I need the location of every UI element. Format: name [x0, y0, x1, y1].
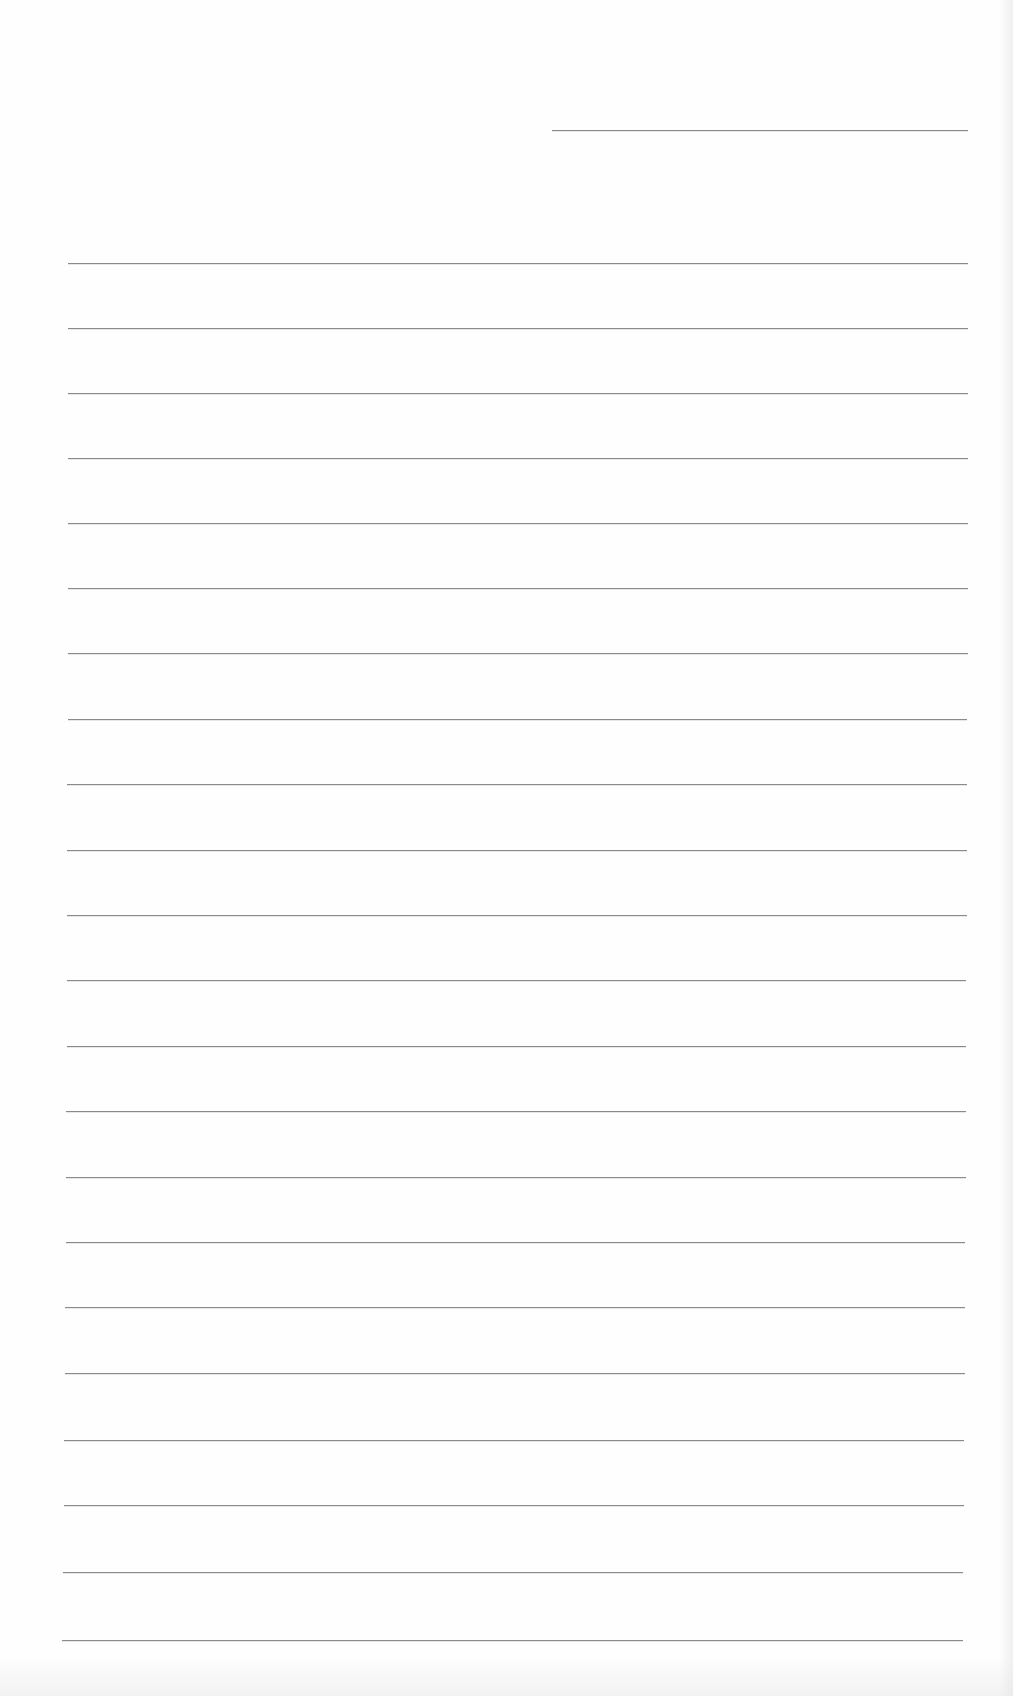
ruled-line: [66, 1242, 965, 1243]
ruled-line: [67, 784, 967, 785]
header-rule: [552, 130, 968, 131]
ruled-line: [67, 850, 967, 851]
ruled-line: [68, 328, 968, 329]
ruled-line: [66, 1177, 966, 1178]
ruled-line: [68, 263, 968, 264]
ruled-line: [63, 1572, 963, 1573]
ruled-line: [65, 1307, 965, 1308]
ruled-line: [65, 1373, 965, 1374]
ruled-line: [68, 458, 968, 459]
ruled-line: [68, 393, 968, 394]
ruled-line: [68, 523, 968, 524]
ruled-line: [66, 1111, 966, 1112]
ruled-line: [64, 1440, 964, 1441]
ruled-line: [67, 1046, 966, 1047]
ruled-line: [68, 653, 968, 654]
scan-edge-right: [999, 0, 1013, 1696]
ruled-line: [68, 719, 967, 720]
ruled-line: [62, 1640, 963, 1641]
ruled-line: [67, 915, 967, 916]
scan-edge-bottom: [0, 1656, 1013, 1696]
ruled-line: [68, 588, 968, 589]
lined-paper-page: [0, 0, 1013, 1696]
ruled-line: [64, 1505, 964, 1506]
ruled-line: [67, 980, 966, 981]
